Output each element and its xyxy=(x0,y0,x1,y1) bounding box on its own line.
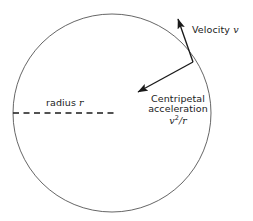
radius-symbol: r xyxy=(79,97,84,108)
centripetal-label-line2: acceleration xyxy=(148,104,208,114)
radius-label-text: radius xyxy=(46,97,76,108)
centripetal-acceleration-diagram: Velocity v Centripetal acceleration v2/r… xyxy=(0,0,253,221)
centripetal-acceleration-arrow xyxy=(138,62,193,92)
radius-label: radius r xyxy=(46,98,84,108)
velocity-symbol: v xyxy=(233,24,238,35)
centripetal-acceleration-label: Centripetal acceleration v2/r xyxy=(148,94,208,126)
velocity-arrow xyxy=(178,19,193,62)
formula-divisor: /r xyxy=(179,115,187,126)
velocity-label-text: Velocity xyxy=(192,24,230,35)
centripetal-formula: v2/r xyxy=(148,116,208,126)
velocity-label: Velocity v xyxy=(192,25,239,35)
